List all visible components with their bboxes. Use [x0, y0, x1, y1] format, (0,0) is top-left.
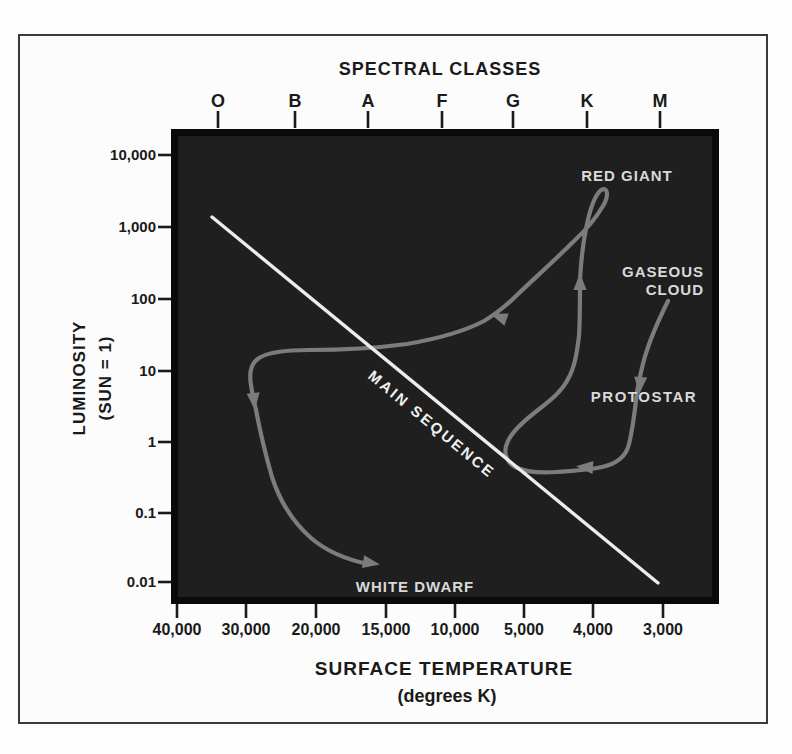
- bottom-tick-marks: [177, 604, 663, 618]
- x-tick-15000: 15,000: [349, 621, 423, 639]
- x-axis-title: SURFACE TEMPERATURE: [315, 658, 573, 680]
- top-tick-marks: [218, 111, 660, 128]
- white-dwarf-label: WHITE DWARF: [356, 578, 474, 595]
- x-tick-4000: 4,000: [556, 621, 630, 639]
- gaseous-cloud-label: GASEOUS CLOUD: [622, 263, 704, 299]
- left-tick-marks: [158, 155, 171, 582]
- x-tick-30000: 30,000: [209, 621, 283, 639]
- hr-diagram-figure: SPECTRAL CLASSES O B A F G K M LUMINOSIT…: [0, 0, 792, 754]
- x-tick-5000: 5,000: [487, 621, 561, 639]
- gaseous-cloud-label-line1: GASEOUS: [622, 263, 704, 281]
- gaseous-cloud-label-line2: CLOUD: [622, 281, 704, 299]
- x-tick-40000: 40,000: [140, 621, 214, 639]
- x-axis-subtitle: (degrees K): [397, 686, 496, 707]
- protostar-label: PROTOSTAR: [591, 388, 697, 405]
- plot-svg: [0, 0, 792, 754]
- plot-background: [178, 136, 712, 597]
- x-tick-20000: 20,000: [279, 621, 353, 639]
- x-tick-3000: 3,000: [626, 621, 700, 639]
- x-tick-10000: 10,000: [418, 621, 492, 639]
- red-giant-label: RED GIANT: [581, 167, 673, 184]
